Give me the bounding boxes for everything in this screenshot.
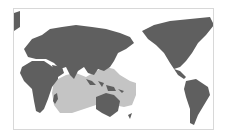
land-central-america <box>174 69 186 79</box>
land-north-america <box>142 17 214 69</box>
land-greenland-west <box>14 11 20 31</box>
world-map <box>14 9 214 130</box>
map-frame <box>13 8 214 130</box>
land-africa <box>20 61 58 113</box>
land-new-zealand <box>128 113 132 119</box>
land-south-america <box>184 79 210 125</box>
